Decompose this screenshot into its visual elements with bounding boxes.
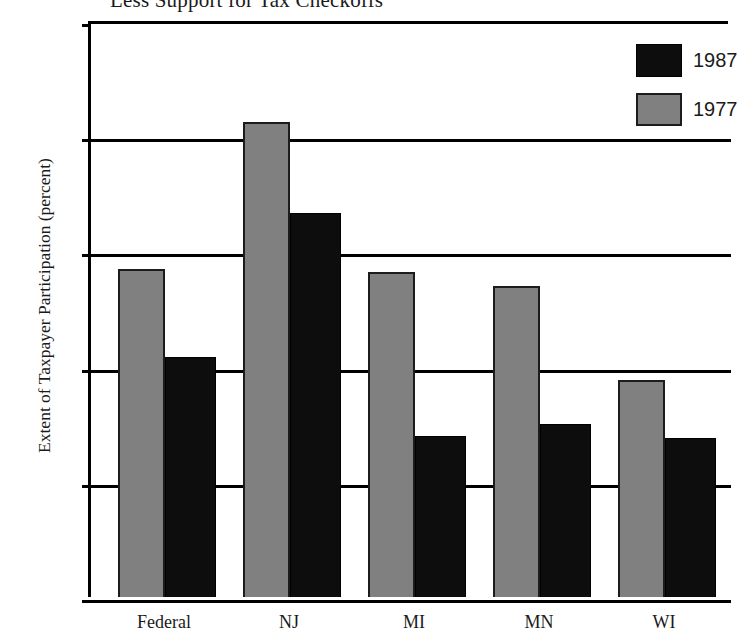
y-axis-tick bbox=[82, 485, 91, 488]
legend-swatch-1987 bbox=[636, 44, 682, 77]
legend-item-1977: 1977 bbox=[636, 93, 738, 126]
legend-item-1987: 1987 bbox=[636, 44, 738, 77]
plot-area: 01020304050 bbox=[88, 21, 728, 597]
gridline bbox=[91, 254, 731, 257]
bar-1987-mi bbox=[415, 436, 466, 597]
legend-swatch-1977 bbox=[636, 93, 682, 126]
plot-inner: 01020304050 bbox=[91, 24, 728, 597]
y-axis-tick bbox=[82, 370, 91, 373]
x-axis-label-wi: WI bbox=[653, 612, 676, 633]
x-axis-label-mn: MN bbox=[524, 612, 553, 633]
bar-1987-nj bbox=[290, 213, 341, 597]
bar-1977-mi bbox=[368, 272, 415, 597]
x-axis-label-mi: MI bbox=[403, 612, 425, 633]
legend-label-1987: 1987 bbox=[693, 49, 738, 72]
y-axis-tick bbox=[82, 24, 91, 27]
chart-legend: 19871977 bbox=[636, 44, 738, 142]
bar-1987-mn bbox=[540, 424, 591, 597]
gridline bbox=[91, 600, 731, 603]
y-axis-title: Extent of Taxpayer Participation (percen… bbox=[34, 16, 55, 596]
y-axis-tick bbox=[82, 600, 91, 603]
y-axis-tick bbox=[82, 254, 91, 257]
chart-title: Less Support for Tax Checkoffs bbox=[110, 0, 530, 13]
bar-1987-wi bbox=[665, 438, 716, 597]
gridline bbox=[91, 139, 731, 142]
bar-1977-wi bbox=[618, 380, 665, 597]
y-axis-tick bbox=[82, 139, 91, 142]
bar-1987-federal bbox=[165, 357, 216, 597]
x-axis-label-nj: NJ bbox=[279, 612, 299, 633]
legend-label-1977: 1977 bbox=[693, 98, 738, 121]
bar-1977-nj bbox=[243, 122, 290, 597]
bar-1977-mn bbox=[493, 286, 540, 597]
x-axis-label-federal: Federal bbox=[137, 612, 191, 633]
bar-1977-federal bbox=[118, 269, 165, 597]
